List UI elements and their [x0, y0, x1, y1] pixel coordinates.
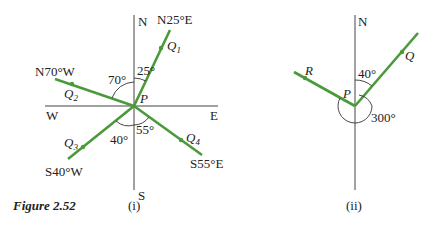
point-label-q3: Q3 — [64, 135, 78, 152]
bearing-label-q4: S55°E — [190, 156, 223, 171]
bearing-label-q1: N25°E — [157, 12, 193, 27]
angle-label-40: 40° — [110, 132, 128, 147]
compass-north-label: N — [138, 14, 148, 29]
center-point-label: P — [139, 91, 148, 106]
q-point-marker — [400, 50, 404, 54]
bearing-label-q2: N70°W — [35, 64, 76, 79]
angle-label-55: 55° — [136, 122, 154, 137]
point-label-q4: Q4 — [186, 130, 200, 147]
figure-caption: Figure 2.52 — [12, 198, 76, 213]
diagram-i-label: (i) — [128, 198, 140, 213]
diagram-ii: N P R Q 40° 300° (ii) — [294, 14, 418, 213]
angle-arc-40 — [116, 121, 134, 126]
point-label-r: R — [304, 63, 313, 78]
angle-label-70: 70° — [108, 72, 126, 87]
q1-point-marker — [159, 46, 163, 50]
q3-point-marker — [81, 145, 85, 149]
angle-label-300: 300° — [371, 110, 396, 125]
center-point-label: P — [342, 86, 351, 101]
bearing-label-q3: S40°W — [45, 164, 83, 179]
point-label-q1: Q1 — [167, 38, 181, 55]
compass-east-label: E — [210, 108, 218, 123]
point-label-q: Q — [405, 48, 415, 63]
angle-label-40: 40° — [358, 66, 376, 81]
q4-point-marker — [179, 138, 183, 142]
compass-west-label: W — [46, 108, 59, 123]
diagram-i: N S W E P N25°E N70°W S40°W S55°E Q1 Q2 … — [35, 12, 223, 213]
point-label-q2: Q2 — [64, 86, 78, 103]
angle-label-25: 25° — [137, 63, 155, 78]
diagram-ii-label: (ii) — [346, 198, 362, 213]
angle-arc-25 — [134, 78, 146, 81]
figure-canvas: N S W E P N25°E N70°W S40°W S55°E Q1 Q2 … — [0, 0, 443, 228]
compass-north-label: N — [358, 14, 368, 29]
